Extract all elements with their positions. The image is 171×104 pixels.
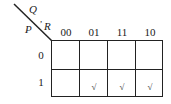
row-header-0: 0: [35, 50, 47, 61]
column-header-11: 11: [108, 27, 136, 38]
column-variable-r: R: [44, 21, 51, 32]
column-header-00: 00: [52, 27, 80, 38]
karnaugh-map-grid: √ √ √: [51, 40, 163, 97]
column-header-10: 10: [136, 27, 164, 38]
cell-p0-qr11: [108, 41, 136, 70]
row-header-1: 1: [35, 77, 47, 88]
cell-p0-qr01: [80, 41, 108, 70]
cell-p1-qr10-check-mark: √: [136, 70, 164, 99]
column-variable-separator: ,: [40, 14, 42, 25]
cell-p1-qr11-check-mark: √: [108, 70, 136, 99]
column-header-01: 01: [80, 27, 108, 38]
column-variable-q: Q: [29, 4, 37, 15]
cell-p0-qr00: [52, 41, 80, 70]
cell-p0-qr10: [136, 41, 164, 70]
cell-p1-qr01-check-mark: √: [80, 70, 108, 99]
cell-p1-qr00: [52, 70, 80, 99]
row-variable-p: P: [25, 24, 32, 35]
